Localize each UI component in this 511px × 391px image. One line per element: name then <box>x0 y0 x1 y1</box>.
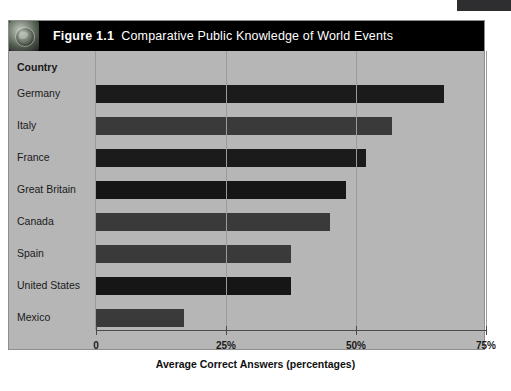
x-axis-title: Average Correct Answers (percentages) <box>0 358 511 370</box>
bar <box>96 149 366 167</box>
x-axis-tick-label: 0 <box>93 340 99 351</box>
x-axis-tick-label: 50% <box>346 340 366 351</box>
column-header-country: Country <box>9 61 88 73</box>
chart-body: CountryGermanyItalyFranceGreat BritainCa… <box>9 51 484 349</box>
bar <box>96 277 291 295</box>
x-axis-tick-label: 75% <box>476 340 496 351</box>
bar <box>96 213 330 231</box>
x-axis-tick-label: 25% <box>216 340 236 351</box>
category-label: United States <box>9 279 88 291</box>
category-label-column: CountryGermanyItalyFranceGreat BritainCa… <box>9 51 96 330</box>
figure-caption: Comparative Public Knowledge of World Ev… <box>121 29 393 43</box>
figure-title: Figure 1.1 Comparative Public Knowledge … <box>39 29 393 43</box>
category-label: France <box>9 151 88 163</box>
category-label: Italy <box>9 119 88 131</box>
category-label: Great Britain <box>9 183 88 195</box>
bar <box>96 117 392 135</box>
category-label: Germany <box>9 87 88 99</box>
bar <box>96 181 346 199</box>
x-axis-tick <box>486 326 487 335</box>
figure-header-bar: Figure 1.1 Comparative Public Knowledge … <box>9 21 484 51</box>
bar <box>96 85 444 103</box>
x-axis-line <box>96 330 486 331</box>
x-axis-tick <box>96 326 97 335</box>
gridline <box>356 51 357 330</box>
plot-area <box>96 51 486 330</box>
category-label: Spain <box>9 247 88 259</box>
category-label: Canada <box>9 215 88 227</box>
bar <box>96 245 291 263</box>
category-label: Mexico <box>9 311 88 323</box>
globe-icon <box>9 21 39 51</box>
x-axis-tick <box>226 326 227 335</box>
gridline <box>486 51 487 330</box>
gridline <box>226 51 227 330</box>
x-axis-tick <box>356 326 357 335</box>
page-edge-artifact <box>457 0 511 11</box>
figure-number: Figure 1.1 <box>53 29 114 43</box>
bar <box>96 309 184 327</box>
figure-panel: Figure 1.1 Comparative Public Knowledge … <box>8 20 485 350</box>
